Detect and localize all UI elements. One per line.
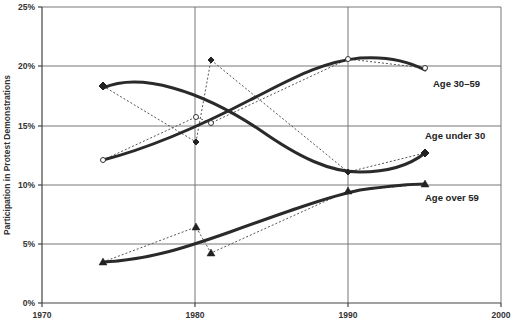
triangle-marker-icon <box>344 187 352 194</box>
diamond-marker-icon <box>99 82 107 90</box>
y-tick-10: 10% <box>18 180 35 190</box>
circle-marker-icon <box>194 115 199 120</box>
circle-marker-icon <box>209 121 214 126</box>
raw-line-over-59 <box>103 184 425 262</box>
y-tick-0: 0% <box>23 298 36 308</box>
diamond-marker-icon <box>193 139 199 145</box>
circle-marker-icon <box>101 158 106 163</box>
trend-curve-over-59 <box>103 184 425 262</box>
raw-line-under-30 <box>103 60 425 172</box>
y-tick-15: 15% <box>18 121 35 131</box>
y-tick-20: 20% <box>18 61 35 71</box>
x-tick-labels: 1970 1980 1990 2000 <box>33 310 511 320</box>
circle-marker-icon <box>423 66 428 71</box>
circle-marker-icon <box>346 57 351 62</box>
trend-curves <box>103 58 425 262</box>
trend-curve-30-59 <box>103 58 425 160</box>
y-tick-5: 5% <box>23 239 36 249</box>
triangle-marker-icon <box>207 249 215 256</box>
x-tick-1980: 1980 <box>186 310 205 320</box>
triangle-marker-icon <box>192 223 200 230</box>
y-tick-25: 25% <box>18 2 35 12</box>
trend-curve-under-30 <box>103 82 425 172</box>
raw-data-lines <box>103 59 425 262</box>
line-chart: 25% 20% 15% 10% 5% 0% 1970 1980 1990 200… <box>0 0 515 329</box>
label-age-over-59: Age over 59 <box>425 192 479 203</box>
x-tick-1990: 1990 <box>339 310 358 320</box>
label-age-under-30: Age under 30 <box>425 130 485 141</box>
markers-over-59 <box>99 180 429 265</box>
y-tick-labels: 25% 20% 15% 10% 5% 0% <box>18 2 35 308</box>
x-tick-2000: 2000 <box>492 310 511 320</box>
diamond-marker-icon <box>208 57 214 63</box>
markers-under-30 <box>99 57 429 175</box>
label-age-30-59: Age 30–59 <box>433 78 480 89</box>
y-axis-title: Participation in Protest Demonstrations <box>2 75 12 235</box>
x-tick-1970: 1970 <box>33 310 52 320</box>
